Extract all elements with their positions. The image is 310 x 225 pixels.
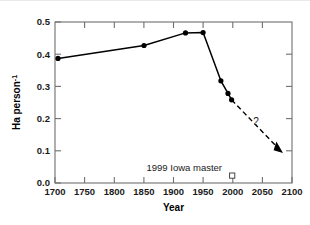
chart-figure: 1700 1750 1800 1850 1900 1950 2000 2050 … [0, 0, 310, 225]
data-point [55, 56, 60, 61]
top-divider [0, 0, 310, 1]
x-tick-label: 1750 [74, 186, 95, 197]
x-axis-ticks-top [85, 22, 263, 28]
y-axis-title: Ha person-1 [11, 75, 23, 130]
y-axis-title-exponent: -1 [11, 75, 18, 81]
data-point [218, 78, 223, 83]
question-mark-label: ? [253, 116, 259, 127]
iowa-master-marker [230, 173, 235, 178]
y-axis-ticks [55, 22, 61, 183]
x-tick-label: 2000 [222, 186, 243, 197]
y-tick-label: 0.5 [37, 16, 51, 27]
line-chart-canvas: 1700 1750 1800 1850 1900 1950 2000 2050 … [0, 0, 310, 225]
x-axis-ticks [55, 177, 292, 183]
y-tick-label: 0.4 [37, 49, 51, 60]
data-point [225, 91, 230, 96]
series-historical [55, 30, 234, 102]
x-tick-label: 1800 [104, 186, 125, 197]
x-tick-label: 2050 [252, 186, 273, 197]
x-tick-label: 2100 [281, 186, 302, 197]
data-point [183, 30, 188, 35]
projection-arrowhead [274, 142, 283, 153]
y-tick-label: 0.2 [37, 113, 50, 124]
y-tick-label: 0.1 [37, 145, 51, 156]
svg-text:Ha person-1: Ha person-1 [11, 75, 23, 130]
x-tick-label: 1950 [193, 186, 214, 197]
y-axis-ticks-right [286, 54, 292, 151]
plot-frame [55, 22, 292, 183]
x-tick-label: 1850 [133, 186, 154, 197]
x-axis-title: Year [163, 202, 184, 213]
x-tick-labels: 1700 1750 1800 1850 1900 1950 2000 2050 … [44, 186, 302, 197]
y-axis-title-base: Ha person [11, 81, 22, 130]
x-tick-label: 1900 [163, 186, 184, 197]
y-tick-label: 0.3 [37, 81, 50, 92]
y-tick-labels: 0.0 0.1 0.2 0.3 0.4 0.5 [37, 16, 51, 188]
data-point [201, 30, 206, 35]
y-tick-label: 0.0 [37, 177, 50, 188]
data-point [141, 43, 146, 48]
iowa-master-label: 1999 Iowa master [146, 162, 222, 173]
